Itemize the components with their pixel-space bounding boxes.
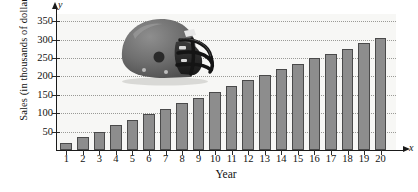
bar xyxy=(342,49,354,150)
y-axis-line xyxy=(56,8,57,150)
bar xyxy=(127,120,139,150)
bar xyxy=(325,54,337,150)
bar xyxy=(259,75,271,150)
x-axis-title-text: Year xyxy=(215,168,236,180)
bar xyxy=(292,64,304,150)
bar xyxy=(176,103,188,150)
x-axis-tick-mark xyxy=(116,150,117,155)
x-axis-tick-mark xyxy=(199,150,200,155)
x-axis-title: Year xyxy=(0,168,418,180)
bar xyxy=(110,125,122,150)
bar xyxy=(193,98,205,150)
bar xyxy=(358,43,370,150)
bar xyxy=(160,109,172,150)
x-axis-tick-mark xyxy=(83,150,84,155)
x-axis-symbol: x xyxy=(409,142,413,153)
bar xyxy=(226,86,238,150)
x-axis-tick-mark xyxy=(314,150,315,155)
x-axis-tick-mark xyxy=(99,150,100,155)
x-axis-tick-mark xyxy=(381,150,382,155)
bar xyxy=(77,137,89,150)
x-axis-tick-mark xyxy=(66,150,67,155)
x-axis-tick-mark xyxy=(331,150,332,155)
bar xyxy=(242,80,254,150)
x-axis-tick-mark xyxy=(364,150,365,155)
y-axis-tick-label: 250 xyxy=(20,53,53,63)
bar xyxy=(276,69,288,150)
x-axis-tick-labels: 1234567891011121314151617181920 xyxy=(56,152,404,168)
football-helmet-illustration xyxy=(116,15,218,87)
x-axis-tick-mark xyxy=(281,150,282,155)
x-axis-tick-mark xyxy=(149,150,150,155)
x-axis-tick-mark xyxy=(166,150,167,155)
bar xyxy=(60,143,72,150)
x-axis-tick-mark xyxy=(298,150,299,155)
bar xyxy=(309,58,321,150)
bar xyxy=(375,38,387,150)
x-axis-tick-mark xyxy=(132,150,133,155)
gridline xyxy=(56,21,396,22)
plot-area xyxy=(56,14,396,150)
gridline xyxy=(56,40,396,41)
x-axis-tick-mark xyxy=(182,150,183,155)
y-axis-tick-label: 300 xyxy=(20,35,53,45)
bar xyxy=(94,132,106,150)
y-axis-symbol: y xyxy=(58,0,62,10)
x-axis-tick-mark xyxy=(215,150,216,155)
y-axis-tick-label: 50 xyxy=(20,127,53,137)
y-axis-tick-label: 200 xyxy=(20,71,53,81)
x-axis-tick-mark xyxy=(265,150,266,155)
x-axis-tick-mark xyxy=(232,150,233,155)
y-axis-tick-label: 350 xyxy=(20,16,53,26)
y-axis-tick-label: 100 xyxy=(20,108,53,118)
bar-chart-figure: Sales (in thousands of dollars) 50100150… xyxy=(0,0,418,192)
y-axis-tick-labels: 50100150200250300350 xyxy=(20,0,53,160)
x-axis-line xyxy=(56,150,404,151)
x-axis-tick-mark xyxy=(348,150,349,155)
y-axis-tick-label: 150 xyxy=(20,90,53,100)
bar xyxy=(209,92,221,150)
x-axis-tick-mark xyxy=(248,150,249,155)
bar xyxy=(143,114,155,150)
